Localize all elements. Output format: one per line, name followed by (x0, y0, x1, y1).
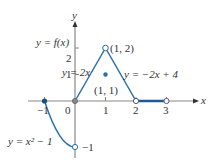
point-3-0 (164, 98, 169, 103)
point-2-0 (133, 98, 138, 103)
point-neg1-0 (42, 98, 47, 103)
neg-one-y-label: −1 (82, 141, 94, 153)
point-1-2 (103, 45, 109, 51)
tick-x-neg1: −1 (37, 104, 49, 116)
tick-x-2: 2 (133, 104, 139, 116)
x-axis-arrow-icon (193, 99, 199, 104)
tick-x-1: 1 (103, 104, 109, 116)
line-neg2x-label: y = −2x + 4 (123, 68, 179, 80)
x-axis-label: x (200, 94, 206, 106)
point-0-neg1 (72, 144, 77, 149)
point-origin (72, 98, 77, 103)
tick-y-1: 1 (66, 68, 72, 80)
function-graph: y x y = f(x) y = 2x y = −2x + 4 y = x² −… (0, 0, 215, 164)
mid-point-label: (1, 1) (94, 84, 118, 97)
tick-x-0: 0 (65, 104, 71, 116)
function-label: y = f(x) (35, 36, 69, 49)
tick-y-2: 2 (66, 52, 72, 64)
y-axis-arrow-icon (73, 21, 78, 27)
peak-point-label: (1, 2) (110, 42, 134, 55)
tick-x-3: 3 (163, 104, 169, 116)
point-1-1 (103, 72, 107, 76)
parabola-label: y = x² − 1 (7, 135, 52, 147)
y-axis-label: y (71, 9, 77, 21)
